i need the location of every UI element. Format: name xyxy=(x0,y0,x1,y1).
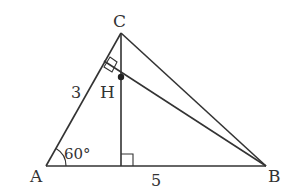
point-H-dot xyxy=(118,74,124,80)
geometry-diagram: C H A B 3 5 60° xyxy=(0,0,301,196)
label-C: C xyxy=(113,11,126,31)
label-angle-A: 60° xyxy=(64,145,91,163)
label-side-AC: 3 xyxy=(71,83,81,102)
label-H: H xyxy=(100,82,115,102)
perpendicular-from-B xyxy=(104,61,266,166)
label-side-AB: 5 xyxy=(151,171,161,190)
label-A: A xyxy=(29,166,43,186)
label-B: B xyxy=(268,166,281,186)
right-angle-mark-base xyxy=(121,154,133,166)
side-BC xyxy=(121,33,266,166)
triangle-figure: C H A B 3 5 60° xyxy=(0,0,301,196)
